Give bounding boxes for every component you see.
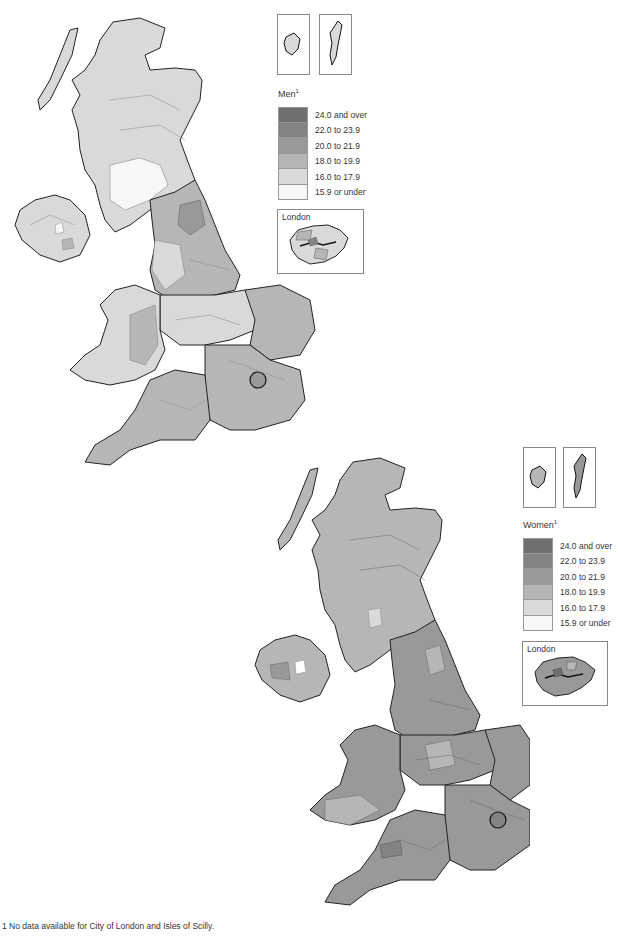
swatch-16-to-17.9 [278,169,308,185]
women-shetland-inset [563,447,596,508]
shetland-islands-shape [330,21,342,65]
swatch-24-and-over [278,107,308,123]
legend-row-24-and-over: 24.0 and over [278,107,367,123]
legend-row-18-to-19.9: 18.0 to 19.9 [523,585,612,601]
women-ni-dark [270,662,290,680]
women-hebrides [278,468,318,550]
footnote: 1 No data available for City of London a… [2,921,214,931]
legend-row-16-to-17.9: 16.0 to 17.9 [278,169,367,185]
legend-row-24-and-over: 24.0 and over [523,538,612,554]
swatch-20-to-21.9 [523,569,553,585]
orkney-islands-shape [530,466,546,488]
women-legend: Women1 24.0 and over 22.0 to 23.9 20.0 t… [523,519,612,631]
swatch-15.9-or-under [523,616,553,632]
legend-row-22-to-23.9: 22.0 to 23.9 [278,123,367,139]
legend-row-15.9-or-under: 15.9 or under [523,616,612,632]
swatch-15.9-or-under [278,185,308,201]
men-northern-ireland [15,195,90,262]
swatch-20-to-21.9 [278,138,308,154]
women-northern-ireland [255,635,330,702]
legend-row-16-to-17.9: 16.0 to 17.9 [523,600,612,616]
swatch-16-to-17.9 [523,600,553,616]
men-london-inset: London [277,209,364,274]
men-legend-title: Men1 [278,88,367,99]
men-london-area [250,372,266,388]
legend-row-22-to-23.9: 22.0 to 23.9 [523,554,612,570]
women-london-inset: London [522,641,608,706]
men-legend: Men1 24.0 and over 22.0 to 23.9 20.0 to … [278,88,367,200]
legend-row-20-to-21.9: 20.0 to 21.9 [278,138,367,154]
women-ni-white [295,660,306,674]
women-northern-england [390,620,480,740]
men-shetland-inset [319,14,352,75]
men-orkney-inset [277,14,310,75]
shetland-islands-shape [574,454,586,498]
women-orkney-inset [523,447,556,508]
legend-row-18-to-19.9: 18.0 to 19.9 [278,154,367,170]
swatch-22-to-23.9 [523,554,553,570]
women-southern-scotland-light [368,608,382,628]
men-ni-dark [62,238,74,250]
swatch-24-and-over [523,538,553,554]
women-london-area [490,812,506,828]
swatch-22-to-23.9 [278,123,308,139]
swatch-18-to-19.9 [523,585,553,601]
women-uk-map [240,440,530,920]
men-hebrides [38,28,78,110]
orkney-islands-shape [284,33,300,55]
legend-row-15.9-or-under: 15.9 or under [278,185,367,201]
swatch-18-to-19.9 [278,154,308,170]
women-south-east [445,785,530,870]
women-legend-title: Women1 [523,519,612,530]
legend-row-20-to-21.9: 20.0 to 21.9 [523,569,612,585]
